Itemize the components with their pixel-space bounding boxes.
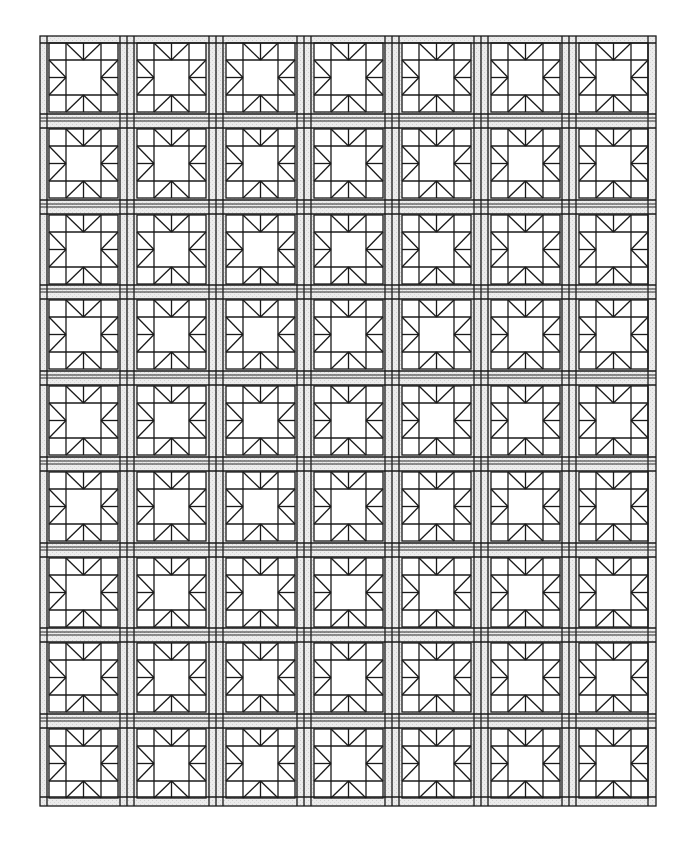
star-block <box>579 729 648 798</box>
star-block <box>226 729 295 798</box>
star-block <box>491 386 560 455</box>
star-block <box>49 129 118 198</box>
star-block <box>579 129 648 198</box>
star-block <box>402 43 471 112</box>
star-block <box>137 300 206 369</box>
star-block <box>491 729 560 798</box>
star-block <box>226 386 295 455</box>
star-block <box>579 643 648 712</box>
star-block <box>314 300 383 369</box>
star-block <box>49 43 118 112</box>
star-block <box>579 558 648 627</box>
star-block <box>579 43 648 112</box>
star-block <box>137 43 206 112</box>
star-block <box>137 129 206 198</box>
star-block <box>137 643 206 712</box>
star-block <box>491 643 560 712</box>
star-block <box>491 300 560 369</box>
star-block <box>491 472 560 541</box>
star-block <box>491 129 560 198</box>
star-block <box>314 729 383 798</box>
star-block <box>49 472 118 541</box>
star-block <box>402 215 471 284</box>
star-block <box>314 558 383 627</box>
star-block <box>314 643 383 712</box>
star-block <box>314 129 383 198</box>
star-block <box>49 300 118 369</box>
star-block <box>314 43 383 112</box>
star-block <box>137 215 206 284</box>
star-block <box>314 215 383 284</box>
star-block <box>402 129 471 198</box>
star-block <box>402 558 471 627</box>
star-block <box>579 300 648 369</box>
quilt-diagram <box>0 0 690 865</box>
star-block <box>579 472 648 541</box>
star-block <box>226 129 295 198</box>
star-block <box>49 215 118 284</box>
star-block <box>137 472 206 541</box>
star-block <box>579 215 648 284</box>
star-block <box>402 472 471 541</box>
star-blocks <box>49 43 648 798</box>
star-block <box>314 386 383 455</box>
star-block <box>491 558 560 627</box>
star-block <box>137 558 206 627</box>
star-block <box>49 558 118 627</box>
star-block <box>402 643 471 712</box>
star-block <box>402 729 471 798</box>
star-block <box>226 215 295 284</box>
star-block <box>491 215 560 284</box>
star-block <box>49 643 118 712</box>
star-block <box>226 300 295 369</box>
star-block <box>49 386 118 455</box>
star-block <box>137 386 206 455</box>
star-block <box>226 472 295 541</box>
star-block <box>402 386 471 455</box>
star-block <box>226 43 295 112</box>
star-block <box>579 386 648 455</box>
star-block <box>491 43 560 112</box>
star-block <box>226 558 295 627</box>
star-block <box>402 300 471 369</box>
star-block <box>226 643 295 712</box>
star-block <box>49 729 118 798</box>
star-block <box>137 729 206 798</box>
star-block <box>314 472 383 541</box>
